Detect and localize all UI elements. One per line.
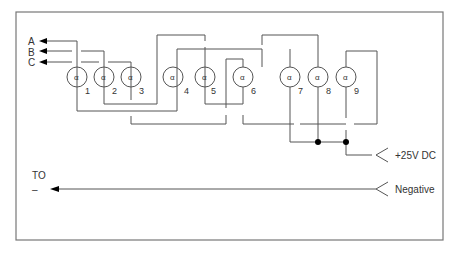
- arrow-left-icon-b: [39, 48, 47, 54]
- lamp-3: α 3: [121, 67, 144, 96]
- output-label-a: A: [28, 36, 35, 47]
- wire-a: [47, 41, 262, 111]
- negative-supply-label: Negative: [395, 184, 435, 195]
- lamp-6: α 6: [233, 67, 256, 96]
- positive-supply-label: +25V DC: [395, 150, 436, 161]
- arrow-left-icon-c: [39, 59, 47, 65]
- connector-icon-negative: [376, 182, 388, 196]
- arrow-left-icon-negative: [50, 186, 59, 192]
- lamp-2: α 2: [94, 67, 117, 96]
- lamp-1: α 1: [67, 67, 90, 96]
- lamp-8: α 8: [308, 67, 331, 96]
- svg-text:α: α: [101, 73, 106, 82]
- lamp-number: 6: [251, 86, 256, 96]
- svg-text:α: α: [202, 73, 207, 82]
- svg-text:α: α: [74, 73, 79, 82]
- svg-text:α: α: [170, 73, 175, 82]
- diagram-frame: [16, 12, 443, 240]
- arrow-left-icon-a: [39, 38, 47, 44]
- lamp-9: α 9: [336, 67, 359, 96]
- svg-text:α: α: [343, 73, 348, 82]
- lamp-number: 3: [139, 86, 144, 96]
- svg-text:α: α: [287, 73, 292, 82]
- lamp-number: 1: [85, 86, 90, 96]
- output-label-c: C: [28, 57, 35, 68]
- junction-node: [315, 139, 321, 145]
- lamp-number: 5: [211, 86, 216, 96]
- lamp-number: 8: [326, 86, 331, 96]
- svg-text:α: α: [315, 73, 320, 82]
- lamp-number: 9: [354, 86, 359, 96]
- svg-text:α: α: [128, 73, 133, 82]
- svg-text:α: α: [240, 73, 245, 82]
- lamp-7: α 7: [280, 67, 303, 96]
- lamp-number: 7: [298, 86, 303, 96]
- connector-icon-positive: [376, 148, 388, 162]
- lamp-number: 4: [184, 86, 189, 96]
- to-label: TO: [32, 170, 46, 181]
- to-symbol: –: [32, 184, 38, 195]
- lamp-4: α 4: [163, 67, 189, 96]
- junction-node: [343, 139, 349, 145]
- lamp-5: α 5: [195, 67, 216, 96]
- wiring-diagram: A B C: [0, 0, 460, 254]
- lamp-number: 2: [112, 86, 117, 96]
